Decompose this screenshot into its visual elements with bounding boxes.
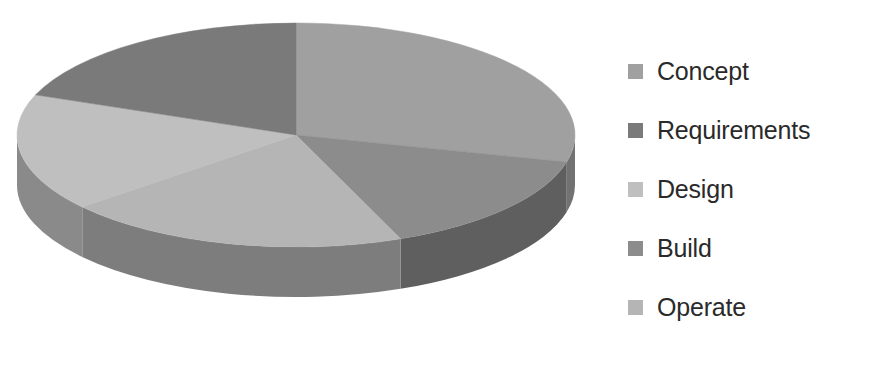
pie-chart-svg	[0, 0, 620, 375]
legend-swatch-requirements	[628, 123, 643, 138]
chart-title	[0, 0, 620, 10]
pie-top-faces	[17, 23, 575, 247]
legend-item[interactable]: Design	[624, 160, 734, 219]
pie-plot-area	[0, 0, 620, 375]
legend-swatch-operate	[628, 300, 643, 315]
legend-label-concept: Concept	[657, 59, 749, 84]
legend-swatch-concept	[628, 64, 643, 79]
legend-label-operate: Operate	[657, 295, 746, 320]
legend-label-requirements: Requirements	[657, 118, 810, 143]
legend-item[interactable]: Requirements	[624, 101, 810, 160]
legend-item[interactable]: Build	[624, 219, 712, 278]
legend-swatch-build	[628, 241, 643, 256]
legend-item[interactable]: Operate	[624, 278, 746, 337]
legend-label-design: Design	[657, 177, 734, 202]
legend-swatch-design	[628, 182, 643, 197]
legend-label-build: Build	[657, 236, 712, 261]
legend-item[interactable]: Concept	[624, 42, 749, 101]
chart-legend: Concept Requirements Design Build Operat…	[624, 0, 880, 375]
pie-chart-figure: Concept Requirements Design Build Operat…	[0, 0, 880, 375]
